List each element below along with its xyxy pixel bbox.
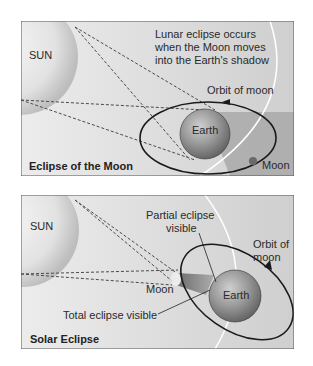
caption-line-2: when the Moon moves [154, 41, 266, 53]
earth-label: Earth [192, 124, 218, 136]
earth-label: Earth [223, 289, 249, 301]
moon-label: Moon [146, 283, 174, 295]
eclipse-diagram: SUN Lunar eclipse occurs when the Moon m… [0, 0, 313, 366]
moon-icon [249, 157, 257, 165]
caption-line-1: Lunar eclipse occurs [155, 28, 256, 40]
orbit-line-2: moon [253, 251, 281, 263]
total-eclipse-label: Total eclipse visible [63, 309, 157, 321]
caption-line-3: into the Earth's shadow [155, 54, 269, 66]
sun-label: SUN [30, 220, 53, 232]
panel-title: Solar Eclipse [30, 333, 99, 345]
partial-line-1: Partial eclipse [146, 209, 214, 221]
sun-label: SUN [29, 49, 52, 61]
solar-eclipse-panel [0, 173, 310, 359]
panel-title: Eclipse of the Moon [29, 160, 133, 172]
orbit-line-1: Orbit of [253, 238, 290, 250]
moon-label: Moon [262, 159, 290, 171]
orbit-label: Orbit of moon [207, 84, 274, 96]
partial-line-2: visible [166, 222, 197, 234]
